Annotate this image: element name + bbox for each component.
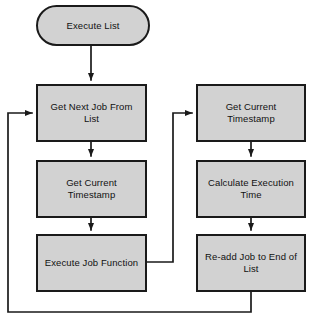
node-execute-job-function-label: Execute Job Function: [42, 257, 141, 269]
node-get-current-timestamp-left-label: Get Current Timestamp: [42, 177, 141, 201]
node-get-next-job-from-list[interactable]: Get Next Job From List: [36, 84, 147, 142]
node-calculate-execution-time-label: Calculate Execution Time: [202, 177, 300, 201]
node-get-current-timestamp-right-label: Get Current Timestamp: [202, 101, 300, 125]
flowchart-canvas: Execute List Get Next Job From List Get …: [0, 0, 318, 326]
connector-execute-job-to-timestamp-right: [147, 113, 192, 262]
node-execute-job-function[interactable]: Execute Job Function: [36, 234, 147, 292]
node-re-add-job-to-end-of-list-label: Re-add Job to End of List: [202, 251, 300, 275]
node-execute-list[interactable]: Execute List: [36, 5, 150, 46]
node-re-add-job-to-end-of-list[interactable]: Re-add Job to End of List: [196, 234, 306, 292]
node-calculate-execution-time[interactable]: Calculate Execution Time: [196, 160, 306, 218]
node-get-current-timestamp-left[interactable]: Get Current Timestamp: [36, 160, 147, 218]
node-get-next-job-from-list-label: Get Next Job From List: [42, 101, 141, 125]
node-get-current-timestamp-right[interactable]: Get Current Timestamp: [196, 84, 306, 142]
node-execute-list-label: Execute List: [42, 20, 144, 32]
